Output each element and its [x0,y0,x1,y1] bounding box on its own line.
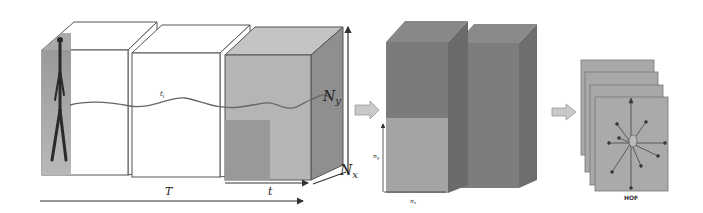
flow-arrow-1 [355,101,379,119]
total-time-label: T [165,185,174,198]
pipeline-diagram: ti Ny Nx t T [0,0,703,213]
cell-highlighted [386,118,448,193]
nx-label: Nx [339,162,358,180]
ny-cell-label: ny [373,152,380,160]
cell-block-back [457,24,537,188]
spatial-subcell [225,120,270,180]
cell-block-front [386,21,468,193]
cell-time-label: t [268,185,273,198]
nx-cell-label: nx [410,197,417,205]
cell-grid: ny nx [373,21,537,205]
video-volume: ti Ny Nx t T [40,22,358,201]
hof-label: HOF [624,194,638,201]
flow-arrow-2 [552,104,576,120]
hof-stack: HOF [581,60,668,201]
